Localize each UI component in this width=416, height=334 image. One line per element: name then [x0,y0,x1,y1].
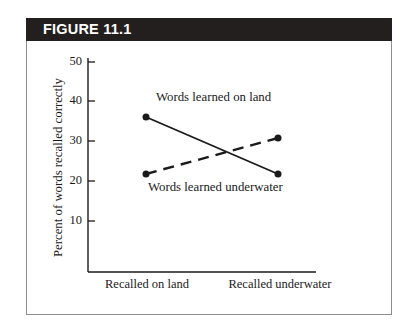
figure-card [26,18,392,315]
figure-header-bar: FIGURE 11.1 [26,18,392,41]
figure-label: FIGURE 11.1 [43,21,131,37]
